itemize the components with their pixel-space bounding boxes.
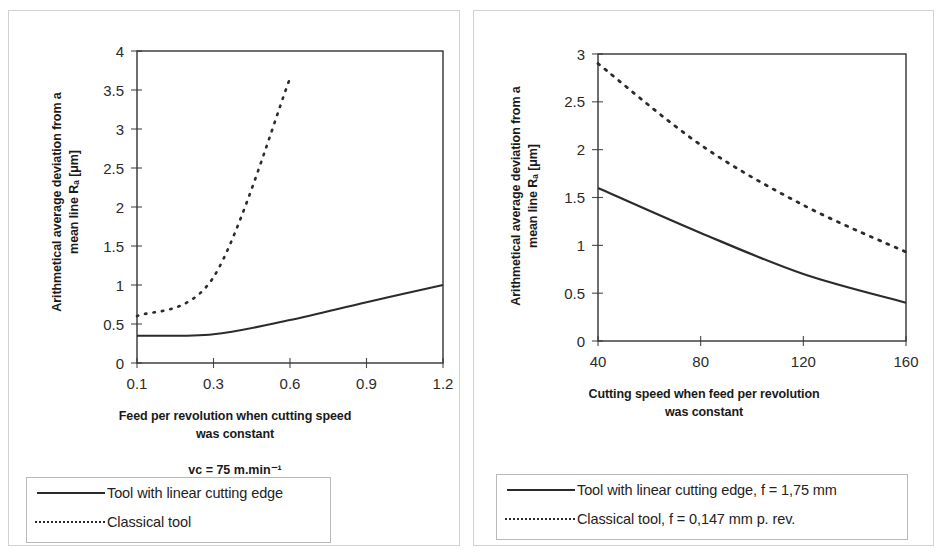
legend-label: Classical tool <box>107 514 191 530</box>
series-line-dashed-right <box>598 64 906 252</box>
y-tick-label: 2 <box>577 141 585 158</box>
x-axis-title-line1: Cutting speed when feed per revolution <box>589 387 820 401</box>
y-tick-label: 1.5 <box>103 238 124 255</box>
line-chart-right: 00.511.522.53 4080120160 <box>474 11 935 391</box>
x-tick-label: 40 <box>590 353 607 370</box>
x-axis-title-right: Cutting speed when feed per revolution w… <box>494 385 914 421</box>
x-tick-label: 160 <box>893 353 918 370</box>
y-tick-label: 4 <box>116 43 124 60</box>
y-tick-label: 3 <box>116 121 124 138</box>
y-axis-ticks-left: 00.511.522.533.54 <box>103 43 142 372</box>
legend-swatch-dashed-icon <box>33 516 107 528</box>
x-tick-label: 0.1 <box>127 375 148 392</box>
y-tick-label: 1 <box>577 237 585 254</box>
x-axis-title-left: Feed per revolution when cutting speed w… <box>29 407 441 443</box>
legend-swatch-solid-icon <box>503 484 577 496</box>
x-axis-title-line2: was constant <box>665 405 743 419</box>
x-tick-label: 0.3 <box>203 375 224 392</box>
chart-panel-left: Arithmetical average deviation from a me… <box>8 10 460 546</box>
legend-label: Tool with linear cutting edge, f = 1,75 … <box>577 482 837 498</box>
legend-item[interactable]: Classical tool, f = 0,147 mm p. rev. <box>497 504 907 533</box>
y-tick-label: 0 <box>577 333 585 350</box>
y-tick-label: 0.5 <box>564 285 585 302</box>
legend-left: Tool with linear cutting edge Classical … <box>26 477 331 543</box>
plot-area-right: 00.511.522.53 4080120160 <box>474 11 935 391</box>
x-tick-label: 0.9 <box>356 375 377 392</box>
legend-label: Classical tool, f = 0,147 mm p. rev. <box>577 511 795 527</box>
legend-swatch-dashed-icon <box>503 513 577 525</box>
y-tick-label: 1.5 <box>564 189 585 206</box>
legend-item[interactable]: Classical tool <box>27 507 330 536</box>
y-tick-label: 2 <box>116 199 124 216</box>
y-tick-label: 0.5 <box>103 316 124 333</box>
legend-item[interactable]: Tool with linear cutting edge, f = 1,75 … <box>497 475 907 504</box>
series-line-solid-right <box>598 188 906 303</box>
series-line-solid-left <box>137 285 443 336</box>
y-tick-label: 3 <box>577 46 585 63</box>
legend-label: Tool with linear cutting edge <box>107 485 283 501</box>
plot-frame-left <box>137 51 443 363</box>
y-tick-label: 2.5 <box>564 93 585 110</box>
x-axis-title-line2: was constant <box>196 427 274 441</box>
y-axis-ticks-right: 00.511.522.53 <box>564 46 603 350</box>
condition-note-text: vᴄ = 75 m.min⁻¹ <box>188 463 282 477</box>
y-tick-label: 1 <box>116 277 124 294</box>
x-axis-title-line1: Feed per revolution when cutting speed <box>119 409 351 423</box>
series-line-dashed-left <box>137 78 290 316</box>
chart-panel-right: Arithmetical average deviation from a me… <box>473 10 934 546</box>
x-tick-label: 120 <box>791 353 816 370</box>
y-tick-label: 3.5 <box>103 82 124 99</box>
x-tick-label: 1.2 <box>433 375 454 392</box>
plot-frame-right <box>598 54 906 341</box>
plot-area-left: 00.511.522.533.54 0.10.30.60.91.2 <box>9 11 461 411</box>
legend-swatch-solid-icon <box>33 487 107 499</box>
line-chart-left: 00.511.522.533.54 0.10.30.60.91.2 <box>9 11 461 411</box>
x-tick-label: 0.6 <box>280 375 301 392</box>
legend-right: Tool with linear cutting edge, f = 1,75 … <box>496 474 908 540</box>
legend-item[interactable]: Tool with linear cutting edge <box>27 478 330 507</box>
y-tick-label: 0 <box>116 355 124 372</box>
y-tick-label: 2.5 <box>103 160 124 177</box>
x-tick-label: 80 <box>692 353 709 370</box>
